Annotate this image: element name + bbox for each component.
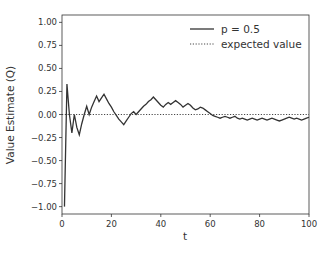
x-axis-ticks: 020406080100	[59, 214, 317, 229]
y-tick-label: −1.00	[31, 202, 57, 212]
y-tick-label: 1.00	[38, 17, 57, 27]
y-tick-label: 0.50	[38, 63, 57, 73]
x-tick-label: 40	[155, 219, 166, 229]
x-axis-label: t	[183, 230, 187, 242]
y-tick-label: −0.50	[31, 156, 57, 166]
y-axis-ticks: 1.000.750.500.250.00−0.25−0.50−0.75−1.00	[31, 17, 62, 211]
y-tick-label: 0.75	[38, 40, 57, 50]
x-tick-label: 20	[106, 219, 117, 229]
line-chart: 1.000.750.500.250.00−0.25−0.50−0.75−1.00…	[0, 0, 330, 255]
x-tick-label: 80	[254, 219, 265, 229]
legend-label-expected-value: expected value	[221, 38, 302, 50]
y-tick-label: 0.00	[38, 110, 57, 120]
x-tick-label: 60	[205, 219, 216, 229]
x-tick-label: 100	[301, 219, 317, 229]
y-tick-label: 0.25	[38, 86, 57, 96]
legend: p = 0.5 expected value	[190, 23, 302, 50]
y-tick-label: −0.25	[31, 133, 57, 143]
y-axis-label: Value Estimate (Q)	[4, 66, 16, 164]
legend-label-p05: p = 0.5	[221, 23, 260, 35]
chart: 1.000.750.500.250.00−0.25−0.50−0.75−1.00…	[0, 0, 330, 255]
x-tick-label: 0	[59, 219, 64, 229]
y-tick-label: −0.75	[31, 179, 57, 189]
series-line-p05	[64, 84, 309, 207]
